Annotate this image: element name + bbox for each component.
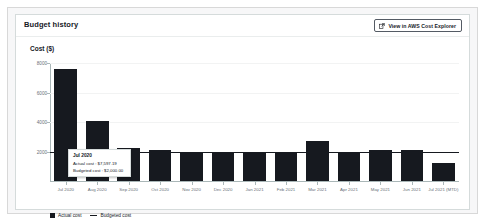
x-axis-tick-mark: [192, 182, 193, 185]
bar-mar-2021[interactable]: [306, 141, 329, 181]
bar-feb-2021[interactable]: [275, 152, 298, 181]
x-axis-tick: Apr 2021: [333, 182, 364, 198]
x-axis-tick: Sep 2020: [113, 182, 144, 198]
bar-slot[interactable]: [239, 63, 270, 181]
bar-apr-2021[interactable]: [338, 153, 361, 181]
x-axis-ticks: Jul 2020Aug 2020Sep 2020Oct 2020Nov 2020…: [50, 182, 459, 198]
x-axis-tick-label: Aug 2020: [88, 187, 107, 192]
x-axis-tick: Mar 2021: [302, 182, 333, 198]
x-axis-tick-mark: [380, 182, 381, 185]
bar-nov-2020[interactable]: [180, 152, 203, 181]
bar-slot[interactable]: [333, 63, 364, 181]
x-axis-tick-label: Jul 2021 (MTD): [428, 187, 458, 192]
legend-item[interactable]: Actual cost: [50, 213, 81, 218]
x-axis-tick-mark: [129, 182, 130, 185]
bar-slot[interactable]: [302, 63, 333, 181]
x-axis-tick-label: Feb 2021: [277, 187, 296, 192]
view-in-aws-cost-explorer-label: View in AWS Cost Explorer: [388, 23, 456, 29]
legend-label: Budgeted cost: [100, 213, 131, 218]
x-axis-tick: Nov 2020: [176, 182, 207, 198]
chart-tooltip: Jul 2020 Actual cost : $7,597.19 Budgete…: [68, 149, 131, 177]
card-header: Budget history View in AWS Cost Explorer: [16, 15, 469, 37]
bar-jun-2021[interactable]: [401, 150, 424, 181]
bar-jan-2021[interactable]: [243, 152, 266, 181]
y-axis-tick-label: 6000: [37, 90, 47, 95]
x-axis-tick: Oct 2020: [144, 182, 175, 198]
bar-slot[interactable]: [176, 63, 207, 181]
tooltip-title: Jul 2020: [73, 153, 126, 158]
budget-history-chart: 2000400060008000 Jul 2020Aug 2020Sep 202…: [24, 57, 463, 209]
y-axis-tick-label: 8000: [37, 61, 47, 66]
x-axis-tick-label: May 2021: [371, 187, 390, 192]
legend-item[interactable]: Budgeted cost: [90, 213, 131, 218]
x-axis-tick-mark: [97, 182, 98, 185]
x-axis-tick-label: Mar 2021: [308, 187, 327, 192]
bar-slot[interactable]: [428, 63, 459, 181]
x-axis-tick-mark: [223, 182, 224, 185]
x-axis-tick-label: Oct 2020: [151, 187, 169, 192]
x-axis-tick-label: Sep 2020: [119, 187, 138, 192]
x-axis-tick: Aug 2020: [81, 182, 112, 198]
x-axis-tick: Jun 2021: [396, 182, 427, 198]
x-axis-tick-mark: [412, 182, 413, 185]
x-axis-tick-mark: [349, 182, 350, 185]
x-axis-tick-label: Apr 2021: [340, 187, 358, 192]
legend-square-icon: [50, 213, 55, 218]
x-axis-tick-label: Jan 2021: [246, 187, 264, 192]
chart-legend: Actual costBudgeted cost: [50, 213, 131, 218]
x-axis-tick-mark: [317, 182, 318, 185]
x-axis-tick: Jul 2021 (MTD): [428, 182, 459, 198]
tooltip-budgeted-cost: Budgeted cost : $2,000.00: [73, 168, 126, 173]
bar-oct-2020[interactable]: [149, 150, 172, 181]
legend-label: Actual cost: [58, 213, 81, 218]
cost-axis-unit-label: Cost ($): [30, 45, 54, 52]
bar-slot[interactable]: [270, 63, 301, 181]
bar-slot[interactable]: [365, 63, 396, 181]
x-axis-tick-mark: [286, 182, 287, 185]
view-in-aws-cost-explorer-button[interactable]: View in AWS Cost Explorer: [374, 19, 462, 32]
bar-may-2021[interactable]: [369, 150, 392, 181]
external-link-icon: [379, 23, 385, 29]
bar-dec-2020[interactable]: [212, 152, 235, 181]
x-axis-tick: Feb 2021: [270, 182, 301, 198]
x-axis-tick-mark: [160, 182, 161, 185]
legend-line-icon: [90, 215, 97, 216]
x-axis-tick-label: Jun 2021: [403, 187, 421, 192]
x-axis-tick: Jan 2021: [239, 182, 270, 198]
x-axis-tick-label: Nov 2020: [182, 187, 201, 192]
x-axis-tick-mark: [443, 182, 444, 185]
x-axis-tick: Dec 2020: [207, 182, 238, 198]
page-root: Budget history View in AWS Cost Explorer…: [0, 0, 485, 221]
x-axis-tick: May 2021: [365, 182, 396, 198]
bar-slot[interactable]: [144, 63, 175, 181]
x-axis-tick: Jul 2020: [50, 182, 81, 198]
tooltip-actual-cost: Actual cost : $7,597.19: [73, 161, 126, 166]
x-axis-tick-mark: [255, 182, 256, 185]
x-axis-tick-mark: [66, 182, 67, 185]
page-title: Budget history: [24, 20, 78, 29]
y-axis-tick-label: 2000: [37, 149, 47, 154]
bar-slot[interactable]: [396, 63, 427, 181]
budget-history-card: Budget history View in AWS Cost Explorer…: [15, 14, 470, 210]
x-axis-tick-label: Dec 2020: [214, 187, 233, 192]
y-axis-tick-label: 4000: [37, 120, 47, 125]
bar-slot[interactable]: [207, 63, 238, 181]
bar-jul-2021-mtd[interactable]: [432, 163, 455, 181]
x-axis-tick-label: Jul 2020: [57, 187, 74, 192]
